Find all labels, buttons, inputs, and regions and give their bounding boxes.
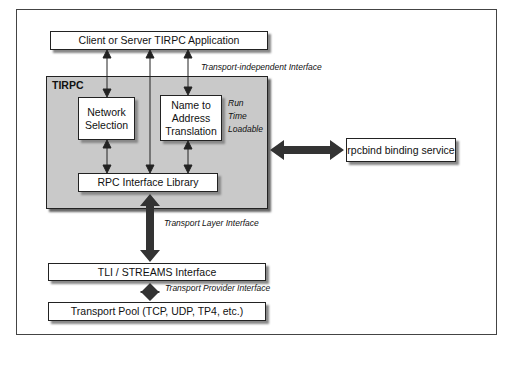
arrow-up-icon [184,141,192,149]
arrows-layer [0,0,512,365]
arrow-up-icon [184,50,192,58]
thick-double-arrow-icon [140,283,160,301]
arrow-up-icon [103,50,111,58]
arrow-down-icon [146,165,154,173]
thick-double-arrow-icon [140,194,160,262]
arrow-up-icon [146,50,154,58]
thick-double-arrow-icon [270,140,344,160]
arrow-down-icon [103,165,111,173]
arrow-down-icon [184,165,192,173]
arrow-down-icon [184,87,192,95]
arrow-up-icon [103,140,111,148]
arrow-down-icon [103,89,111,97]
